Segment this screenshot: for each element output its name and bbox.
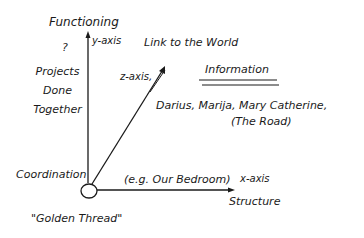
- z-axis-stroke: [150, 70, 165, 92]
- z-axis-line: [92, 68, 164, 184]
- coordination-label: Coordination: [16, 169, 87, 180]
- names-label: Darius, Marija, Mary Catherine,: [156, 100, 327, 111]
- origin-circle: [81, 184, 97, 198]
- projects-label: Projects: [30, 66, 85, 77]
- z-axis-label: z-axis,: [120, 72, 152, 82]
- x-axis-label: x-axis: [240, 174, 270, 184]
- x-axis-title: Structure: [229, 196, 280, 207]
- information-heading: Information: [205, 64, 269, 75]
- golden-thread-caption: "Golden Thread": [31, 213, 122, 224]
- z-axis-arrowhead-icon: [159, 66, 165, 74]
- x-axis-arrowhead-icon: [228, 188, 235, 193]
- the-road-label: (The Road): [231, 116, 292, 127]
- question-mark: ?: [62, 42, 68, 53]
- z-axis-title: Link to the World: [144, 37, 238, 48]
- y-axis-title: Functioning: [49, 16, 119, 28]
- done-label: Done: [30, 85, 85, 96]
- x-example-label: (e.g. Our Bedroom): [124, 174, 230, 185]
- together-label: Together: [30, 104, 85, 115]
- diagram-canvas: Functioning y-axis ? Projects Done Toget…: [0, 0, 364, 238]
- y-axis-label: y-axis: [92, 36, 121, 46]
- y-axis-arrowhead-icon: [86, 31, 91, 38]
